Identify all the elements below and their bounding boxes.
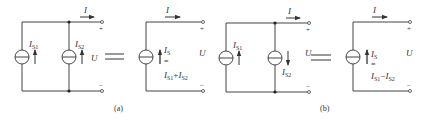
caption-a: (a): [114, 104, 123, 113]
circuit-a-parallel: IS1 IS2 I + − U: [15, 5, 104, 93]
label-is1: IS1: [28, 39, 38, 50]
circuit-diagram: IS1 IS2 I + − U IS = IS1+IS2 I: [0, 0, 422, 121]
terminal-plus: [308, 22, 311, 25]
node-dot: [67, 20, 70, 23]
minus-sign: −: [407, 82, 411, 90]
label-is: IS: [370, 49, 377, 60]
current-source-is1-icon: [15, 50, 29, 64]
current-source-is2-icon: [268, 51, 282, 65]
minus-sign: −: [306, 83, 310, 91]
circuit-b-equivalent: IS = IS1−IS2 I + − U: [346, 5, 413, 93]
label-voltage: U: [91, 53, 98, 63]
current-source-is2-icon: [62, 50, 76, 64]
current-source-is-icon: [139, 50, 153, 64]
equals-sign-a: [105, 54, 124, 59]
label-is1: IS1: [232, 40, 242, 51]
circuit-b-parallel: IS1 IS2 I + − U: [219, 6, 312, 94]
node-dot: [273, 21, 276, 24]
caption-b: (b): [320, 104, 330, 113]
plus-sign: +: [99, 25, 103, 33]
equals-small: =: [164, 57, 169, 66]
minus-sign: −: [200, 82, 204, 90]
label-is2: IS2: [74, 39, 84, 50]
label-is2: IS2: [281, 67, 291, 78]
plus-sign: +: [200, 25, 204, 33]
label-sum-expression: IS1+IS2: [163, 70, 188, 81]
label-current: I: [287, 6, 292, 16]
plus-sign: +: [407, 25, 411, 33]
label-voltage: U: [406, 48, 413, 58]
terminal-plus: [101, 21, 104, 24]
label-diff-expression: IS1−IS2: [370, 71, 395, 82]
terminal-plus: [202, 21, 205, 24]
current-source-is1-icon: [219, 51, 233, 65]
label-current: I: [165, 5, 170, 15]
current-source-is-icon: [346, 50, 360, 64]
plus-sign: +: [306, 26, 310, 34]
equals-small: =: [371, 60, 376, 69]
label-voltage: U: [199, 48, 206, 58]
minus-sign: −: [99, 82, 103, 90]
circuit-a-equivalent: IS = IS1+IS2 I + − U: [139, 5, 206, 93]
terminal-plus: [409, 21, 412, 24]
label-is: IS: [163, 45, 170, 56]
node-dot: [273, 90, 276, 93]
node-dot: [67, 89, 70, 92]
equals-sign-b: [311, 55, 331, 60]
label-current: I: [83, 5, 88, 15]
label-voltage: U: [305, 48, 312, 58]
label-current: I: [372, 5, 377, 15]
